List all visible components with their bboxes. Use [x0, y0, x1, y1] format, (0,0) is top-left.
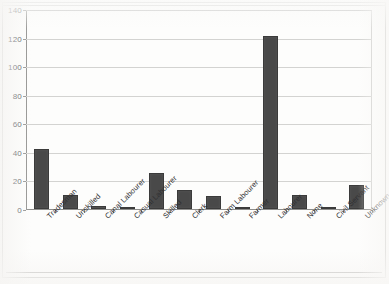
x-axis-category-label: Casual Labourer: [132, 214, 138, 220]
x-axis-category-label: Unskilled: [74, 214, 80, 220]
bar-slot: [84, 10, 113, 209]
x-axis-category-label: None: [305, 214, 311, 220]
x-axis-category-label: Unknown: [363, 214, 369, 220]
x-axis-category-label: Skilled: [161, 214, 167, 220]
x-axis-category-label: Clerk: [190, 214, 196, 220]
y-axis-tick-mark: [23, 10, 26, 11]
y-axis-tick-mark: [23, 124, 26, 125]
y-axis-tick-label: 140: [8, 6, 22, 15]
y-axis-tick-mark: [23, 39, 26, 40]
bar-chart-figure: 020406080100120140 TradesmanUnskilledCan…: [0, 0, 389, 284]
x-axis-category-label: Tradesman: [45, 214, 51, 220]
bar-series: [27, 10, 371, 209]
figure-top-rule: [2, 5, 386, 6]
y-axis-tick-mark: [23, 153, 26, 154]
x-axis-category-label: Civil Servant: [334, 214, 340, 220]
x-axis-category-label: Canal Labourer: [103, 214, 109, 220]
y-axis-tick-mark: [23, 181, 26, 182]
bar[interactable]: [263, 36, 278, 209]
bar[interactable]: [34, 149, 49, 209]
y-axis-tick-label: 60: [13, 120, 22, 129]
plot-area: 020406080100120140: [26, 10, 372, 210]
plot-right-border: [371, 10, 372, 210]
figure-bottom-rule: [6, 272, 382, 273]
bar-slot: [56, 10, 85, 209]
bar-slot: [314, 10, 343, 209]
bar-slot: [256, 10, 285, 209]
y-axis-tick-mark: [23, 67, 26, 68]
y-axis-tick-label: 40: [13, 148, 22, 157]
y-axis-tick-label: 120: [8, 34, 22, 43]
bar-slot: [199, 10, 228, 209]
y-axis-tick-mark: [23, 96, 26, 97]
x-axis-category-label: Farmer: [247, 214, 253, 220]
y-axis-tick-label: 100: [8, 63, 22, 72]
bar-slot: [342, 10, 371, 209]
y-axis-tick-label: 0: [17, 206, 22, 215]
x-axis-category-labels: TradesmanUnskilledCanal LabourerCasual L…: [26, 214, 372, 272]
x-axis-category-label: Labourer: [276, 214, 282, 220]
y-axis-tick-label: 20: [13, 177, 22, 186]
bar-slot: [285, 10, 314, 209]
y-axis-tick-label: 80: [13, 91, 22, 100]
x-axis-category-label: Farm Labourer: [218, 214, 224, 220]
bar-slot: [27, 10, 56, 209]
